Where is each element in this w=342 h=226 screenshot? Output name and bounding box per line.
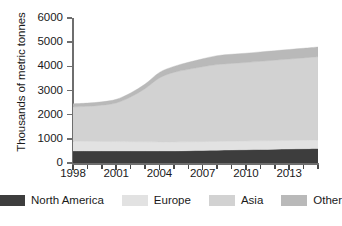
x-tick-label-2010: 2010 (226, 168, 266, 180)
legend-item-other[interactable]: Other (281, 194, 342, 206)
y-tick-6000 (67, 17, 72, 19)
x-tick-label-2007: 2007 (183, 168, 223, 180)
area-series-group (73, 18, 318, 163)
legend-label-europe: Europe (154, 194, 191, 206)
legend-item-europe[interactable]: Europe (122, 194, 191, 206)
y-tick-label-3000: 3000 (23, 85, 63, 97)
legend-swatch-other (281, 195, 307, 206)
legend-item-north-america[interactable]: North America (0, 194, 104, 206)
x-tick-label-1998: 1998 (53, 168, 93, 180)
y-tick-1000 (67, 138, 72, 140)
legend-item-asia[interactable]: Asia (209, 194, 263, 206)
x-axis-line (72, 163, 319, 165)
y-tick-label-4000: 4000 (23, 60, 63, 72)
x-tick-2015 (317, 165, 319, 169)
y-tick-label-2000: 2000 (23, 109, 63, 121)
y-tick-label-0: 0 (23, 157, 63, 169)
y-tick-3000 (67, 90, 72, 92)
y-tick-label-1000: 1000 (23, 133, 63, 145)
area-series-asia (73, 57, 318, 142)
x-tick-label-2001: 2001 (96, 168, 136, 180)
y-tick-2000 (67, 114, 72, 116)
x-tick-label-2013: 2013 (269, 168, 309, 180)
legend-swatch-asia (209, 195, 235, 206)
legend-label-other: Other (313, 194, 342, 206)
chart-legend: North AmericaEuropeAsiaOther (0, 190, 341, 210)
legend-swatch-europe (122, 195, 148, 206)
y-tick-5000 (67, 41, 72, 43)
legend-label-asia: Asia (241, 194, 263, 206)
y-tick-4000 (67, 66, 72, 68)
y-tick-label-5000: 5000 (23, 36, 63, 48)
plot-area (73, 18, 318, 163)
x-tick-label-2004: 2004 (139, 168, 179, 180)
y-tick-0 (67, 162, 72, 164)
legend-swatch-north-america (0, 195, 25, 206)
legend-label-north-america: North America (31, 194, 104, 206)
y-tick-label-6000: 6000 (23, 12, 63, 24)
